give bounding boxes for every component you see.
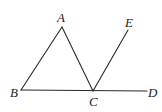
label-point-d: D [147, 85, 158, 100]
label-point-a: A [56, 10, 65, 25]
segment-ce [93, 30, 128, 91]
label-point-b: B [10, 85, 18, 100]
segment-ab [21, 27, 62, 90]
segment-bd [21, 90, 147, 91]
geometry-diagram: A B C D E [0, 0, 162, 112]
label-point-c: C [89, 94, 98, 109]
segment-ac [62, 27, 93, 91]
label-point-e: E [124, 15, 133, 30]
